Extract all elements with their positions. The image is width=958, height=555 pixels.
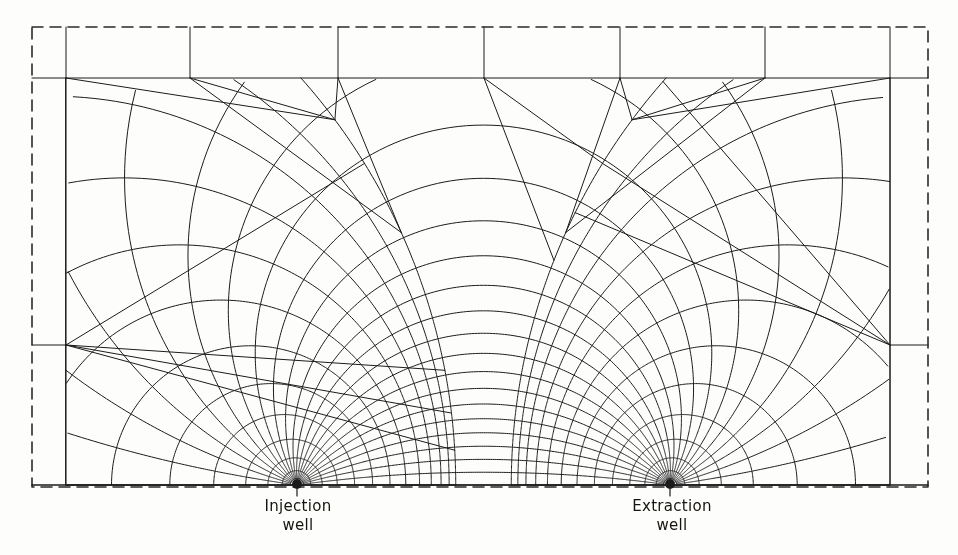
flow-net-mesh-canvas [0,0,958,555]
injection-well-label-line1: Injection [198,497,398,516]
flow-net-figure: Injection well Extraction well [0,0,958,555]
extraction-well-label-line2: well [572,516,772,535]
injection-well-label-line2: well [198,516,398,535]
extraction-well-label: Extraction well [572,497,772,535]
injection-well-label: Injection well [198,497,398,535]
extraction-well-label-line1: Extraction [572,497,772,516]
